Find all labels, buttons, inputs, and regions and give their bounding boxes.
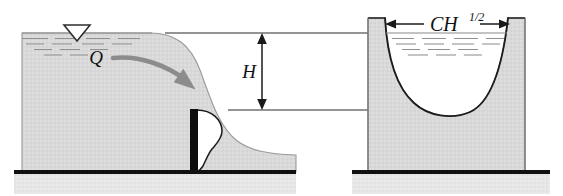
water-surface-hatching-right xyxy=(392,39,504,56)
head-label: H xyxy=(241,61,257,82)
weir-plate-side xyxy=(190,109,198,172)
reservoir-water-body xyxy=(22,33,296,172)
notch-width-label-base: CH xyxy=(430,13,459,35)
notch-width-dimension-group: CH 1/2 xyxy=(385,10,510,35)
ground-substrate xyxy=(14,172,550,194)
notch-width-label-exponent: 1/2 xyxy=(469,10,484,24)
side-elevation-view: Q xyxy=(14,25,296,172)
notch-arrowhead-left xyxy=(385,19,396,28)
front-elevation-view xyxy=(352,18,550,172)
weir-diagram-figure: Q H xyxy=(0,0,563,196)
head-arrowhead-up xyxy=(257,33,267,44)
weir-body-front xyxy=(368,18,525,172)
ground-band-right xyxy=(352,172,550,194)
discharge-label: Q xyxy=(89,47,103,68)
head-arrowhead-down xyxy=(257,99,267,110)
ground-band-left xyxy=(14,172,296,194)
weir-diagram-canvas: Q H xyxy=(0,0,563,196)
